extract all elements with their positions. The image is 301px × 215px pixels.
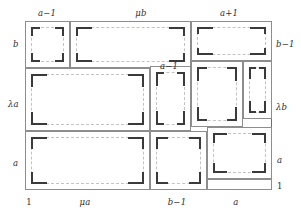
cell-one-strip [207,179,272,190]
dissection-figure: a−1μba+1bλaab−1λba11μab−1aa−1 [0,0,301,215]
dimension-label-right-0: b−1 [276,40,295,49]
corner-tick-v-9-0 [213,133,215,143]
dimension-label-right-2: a [277,156,282,165]
corner-tick-h-2-2 [197,53,213,55]
corner-tick-v-2-3 [264,48,266,55]
dimension-label-interior-0: a−1 [160,62,178,71]
corner-tick-v-4-0 [156,72,158,86]
dimension-label-right-1: λb [276,103,287,112]
ghost-outline-3 [31,74,144,125]
corner-tick-h-9-2 [213,171,227,173]
corner-tick-h-9-0 [213,133,227,135]
dimension-label-top-0: a−1 [38,9,56,18]
dimension-label-top-2: a+1 [220,9,238,18]
corner-tick-v-6-2 [264,67,266,79]
corner-tick-h-2-0 [197,27,213,29]
corner-tick-v-7-0 [31,137,33,149]
corner-tick-v-0-1 [31,53,33,62]
corner-tick-v-4-3 [183,111,185,125]
dimension-label-left-1: λa [8,100,19,109]
corner-tick-v-3-1 [31,112,33,125]
corner-tick-h-3-0 [31,74,47,76]
corner-tick-v-2-1 [197,48,199,55]
corner-tick-v-4-1 [156,111,158,125]
dimension-label-left-0: b [13,40,19,49]
corner-tick-v-6-3 [264,101,266,113]
corner-tick-v-6-0 [249,67,251,79]
corner-tick-h-7-0 [31,137,47,139]
corner-tick-h-8-2 [156,182,168,184]
corner-tick-v-2-0 [197,27,199,34]
corner-tick-v-1-2 [183,27,185,36]
corner-tick-v-4-2 [183,72,185,86]
corner-tick-h-8-0 [156,137,168,139]
corner-tick-v-0-0 [31,27,33,36]
dimension-label-bottom-2: b−1 [168,198,187,207]
corner-tick-v-5-0 [197,67,199,81]
corner-tick-h-3-2 [31,123,47,125]
dimension-label-bottom-1: μa [80,198,91,207]
corner-tick-v-8-3 [199,172,201,184]
dimension-label-bottom-3: a [233,198,238,207]
ghost-outline-0 [31,27,64,62]
corner-tick-v-7-3 [142,172,144,184]
corner-tick-v-3-3 [142,112,144,125]
corner-tick-v-9-2 [264,133,266,143]
corner-tick-v-9-1 [213,163,215,173]
corner-tick-v-8-0 [156,137,158,149]
corner-tick-v-2-2 [264,27,266,34]
corner-tick-v-1-1 [76,53,78,62]
corner-tick-h-1-0 [76,27,92,29]
ghost-outline-9 [213,133,266,173]
corner-tick-v-1-3 [183,53,185,62]
corner-tick-v-5-2 [235,67,237,81]
corner-tick-h-1-2 [76,60,92,62]
corner-tick-v-3-0 [31,74,33,87]
corner-tick-v-7-1 [31,172,33,184]
ghost-outline-1 [76,27,185,62]
ghost-outline-8 [156,137,201,184]
dimension-label-top-1: μb [135,9,146,18]
corner-tick-v-1-0 [76,27,78,36]
corner-tick-v-8-1 [156,172,158,184]
corner-tick-h-7-2 [31,182,47,184]
corner-tick-v-5-3 [235,107,237,121]
ghost-outline-2 [197,27,266,55]
dimension-label-bottom-0: 1 [26,198,32,207]
dimension-label-left-2: a [13,159,18,168]
dimension-label-right-3: 1 [277,182,283,191]
corner-tick-v-3-2 [142,74,144,87]
corner-tick-v-7-2 [142,137,144,149]
corner-tick-v-6-1 [249,101,251,113]
corner-tick-v-8-2 [199,137,201,149]
corner-tick-v-0-2 [62,27,64,36]
ghost-outline-4 [156,72,185,125]
ghost-outline-5 [197,67,237,121]
corner-tick-v-9-3 [264,163,266,173]
corner-tick-v-0-3 [62,53,64,62]
ghost-outline-7 [31,137,144,184]
corner-tick-v-5-1 [197,107,199,121]
